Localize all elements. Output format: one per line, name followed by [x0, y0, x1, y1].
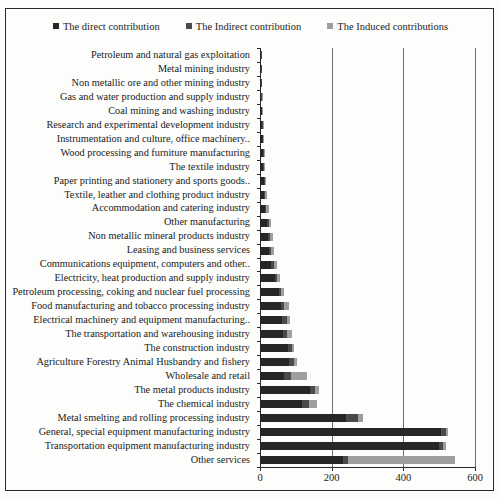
bar-segment-induced: [269, 219, 272, 227]
bar-segment-induced: [281, 288, 284, 296]
category-label: General, special equipment manufacturing…: [6, 425, 255, 439]
bar-row: [260, 188, 475, 202]
bar-row: [260, 118, 475, 132]
bar-row: [260, 453, 475, 467]
bar-segment-direct: [260, 372, 284, 380]
category-label: Food manufacturing and tobacco processin…: [6, 299, 255, 313]
stacked-bar: [260, 121, 263, 129]
bar-segment-induced: [263, 121, 264, 129]
category-label: Petroleum and natural gas exploitation: [6, 48, 255, 62]
stacked-bar: [260, 316, 290, 324]
bar-segment-direct: [260, 442, 439, 450]
bar-segment-induced: [263, 135, 264, 143]
category-label: The transportation and warehousing indus…: [6, 327, 255, 341]
bar-segment-direct: [260, 233, 268, 241]
stacked-bar: [260, 400, 317, 408]
bar-segment-indirect: [261, 51, 262, 59]
category-label: Accommodation and catering industry: [6, 202, 255, 216]
bar-segment-direct: [260, 302, 281, 310]
bar-row: [260, 299, 475, 313]
bar-segment-induced: [287, 330, 292, 338]
category-label: Wood processing and furniture manufactur…: [6, 146, 255, 160]
stacked-bar: [260, 233, 273, 241]
bar-row: [260, 327, 475, 341]
bar-segment-direct: [260, 428, 441, 436]
bar-row: [260, 439, 475, 453]
bar-segment-induced: [284, 302, 288, 310]
stacked-bar: [260, 302, 289, 310]
bar-segment-induced: [270, 233, 273, 241]
bar-row: [260, 48, 475, 62]
value-axis-tick-labels: 0200400600: [260, 472, 475, 488]
stacked-bar: [260, 288, 284, 296]
bar-segment-direct: [260, 344, 288, 352]
bar-segment-induced: [264, 149, 265, 157]
bar-segment-direct: [260, 288, 279, 296]
category-label: Coal mining and washing industry: [6, 104, 255, 118]
chart-frame: The direct contribution The Indirect con…: [5, 8, 494, 491]
category-label: Metal mining industry: [6, 62, 255, 76]
category-label: Leasing and business services: [6, 244, 255, 258]
bar-row: [260, 397, 475, 411]
category-label: The metal products industry: [6, 383, 255, 397]
bar-segment-direct: [260, 261, 271, 269]
stacked-bar: [260, 386, 319, 394]
category-label: The textile industry: [6, 160, 255, 174]
bar-segment-induced: [443, 442, 446, 450]
bar-segment-induced: [262, 107, 263, 115]
bar-segment-direct: [260, 400, 302, 408]
gridline: [475, 48, 476, 467]
value-tick: [260, 467, 261, 471]
bar-row: [260, 174, 475, 188]
category-label: Transportation equipment manufacturing i…: [6, 439, 255, 453]
category-label: Other services: [6, 453, 255, 467]
bar-row: [260, 313, 475, 327]
bar-row: [260, 425, 475, 439]
bars-and-grid: [260, 48, 475, 467]
bar-segment-indirect: [261, 65, 262, 73]
bar-segment-induced: [294, 358, 297, 366]
bar-segment-direct: [260, 358, 289, 366]
bar-row: [260, 285, 475, 299]
stacked-bar: [260, 149, 264, 157]
value-tick-label: 600: [467, 472, 483, 483]
bar-row: [260, 369, 475, 383]
stacked-bar: [260, 135, 264, 143]
bar-row: [260, 62, 475, 76]
category-label: Metal smelting and rolling processing in…: [6, 411, 255, 425]
bar-segment-direct: [260, 274, 275, 282]
category-label: The chemical industry: [6, 397, 255, 411]
category-label: Gas and water production and supply indu…: [6, 90, 255, 104]
stacked-bar: [260, 414, 363, 422]
bar-segment-induced: [274, 261, 277, 269]
bar-row: [260, 383, 475, 397]
bar-segment-direct: [260, 414, 346, 422]
category-label: Electricity, heat production and supply …: [6, 272, 255, 286]
bar-segment-induced: [287, 316, 291, 324]
bar-segment-induced: [264, 163, 265, 171]
category-label: Wholesale and retail: [6, 369, 255, 383]
stacked-bar: [260, 177, 266, 185]
value-tick-label: 400: [395, 472, 411, 483]
stacked-bar: [260, 261, 277, 269]
value-tick: [332, 467, 333, 471]
bar-row: [260, 216, 475, 230]
category-label: The construction industry: [6, 341, 255, 355]
stacked-bar: [260, 107, 263, 115]
bar-segment-induced: [315, 386, 319, 394]
bar-series-container: [260, 48, 475, 467]
bar-row: [260, 272, 475, 286]
plot-area: Petroleum and natural gas exploitationMe…: [6, 9, 495, 492]
category-label: Paper printing and stationery and sports…: [6, 174, 255, 188]
stacked-bar: [260, 51, 261, 59]
category-label: Instrumentation and culture, office mach…: [6, 132, 255, 146]
stacked-bar: [260, 79, 262, 87]
stacked-bar: [260, 456, 455, 464]
bar-segment-indirect: [261, 79, 262, 87]
category-label: Communications equipment, computers and …: [6, 258, 255, 272]
stacked-bar: [260, 330, 292, 338]
bar-segment-induced: [277, 274, 280, 282]
bar-row: [260, 146, 475, 160]
bar-segment-direct: [260, 247, 269, 255]
category-label: Petroleum processing, coking and nuclear…: [6, 285, 255, 299]
